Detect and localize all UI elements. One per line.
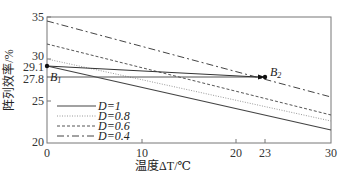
legend: D=1 D=0.8 D=0.6 D=0.4 — [57, 99, 130, 143]
efficiency-chart: 35 30 29.1 27.8 25 20 0 10 20 23 30 温度ΔT… — [0, 0, 349, 174]
label-b2: B2 — [270, 65, 281, 80]
y-tick-25: 25 — [32, 94, 44, 108]
series-d-0-6 — [47, 44, 331, 115]
y-tick-20: 20 — [32, 135, 44, 149]
x-tick-10: 10 — [136, 146, 148, 160]
y-axis-label: 阵列效率/% — [1, 49, 16, 110]
label-b1: B1 — [50, 70, 61, 85]
x-tick-20: 20 — [230, 146, 242, 160]
y-tick-27-8: 27.8 — [23, 72, 44, 86]
x-tick-23: 23 — [259, 146, 271, 160]
point-b1 — [45, 64, 49, 68]
legend-d-0-4: D=0.4 — [97, 129, 130, 143]
series-d-0-4 — [47, 21, 331, 97]
x-tick-30: 30 — [325, 146, 337, 160]
y-tick-35: 35 — [32, 10, 44, 24]
series-d-1 — [47, 66, 331, 130]
x-tick-0: 0 — [44, 146, 50, 160]
x-axis: 0 10 20 23 30 — [44, 139, 337, 160]
arrow-b1-b2 — [47, 66, 258, 77]
point-b2 — [263, 75, 267, 79]
x-axis-label: 温度ΔT/℃ — [135, 158, 191, 173]
